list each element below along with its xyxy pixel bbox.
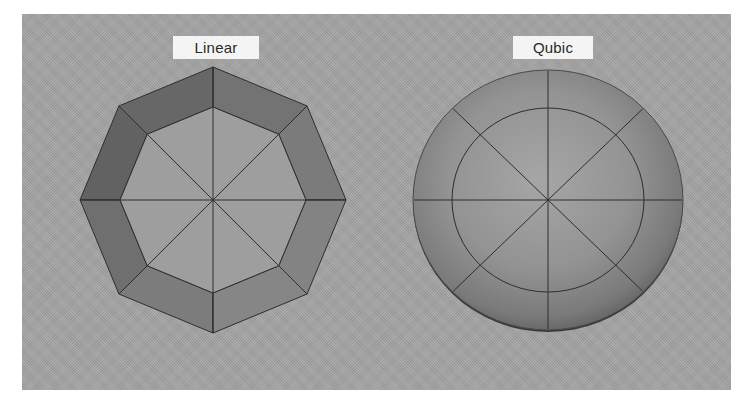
- comparison-diagram: [0, 0, 751, 404]
- qubic-sphere: [413, 70, 683, 332]
- linear-octagon: [80, 67, 346, 333]
- label-qubic-text: Qubic: [533, 39, 573, 56]
- label-linear-text: Linear: [195, 39, 238, 56]
- label-linear: Linear: [173, 36, 259, 59]
- sphere-spokes: [414, 71, 682, 329]
- label-qubic: Qubic: [513, 36, 593, 59]
